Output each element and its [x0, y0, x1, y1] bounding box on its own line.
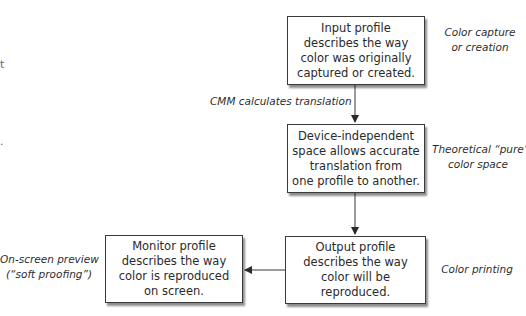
box-line: Device-independent [292, 129, 420, 144]
side-label-line: On-screen preview [0, 252, 98, 267]
input-profile-box: Input profile describes the way color wa… [287, 16, 425, 85]
box-line: color was originally [297, 51, 415, 66]
color-capture-label: Color capture or creation [440, 25, 520, 55]
box-line: one profile to another. [292, 174, 420, 189]
box-line: Monitor profile [119, 239, 229, 254]
side-label-line: color space [432, 157, 524, 172]
box-line: describes the way [297, 36, 415, 51]
side-label-line: Color printing [437, 262, 517, 277]
device-independent-space-box: Device-independent space allows accurate… [287, 124, 425, 193]
side-label-line: Theoretical “pure” [432, 142, 524, 157]
box-line: reproduced. [303, 285, 407, 300]
output-profile-box: Output profile describes the way color w… [285, 236, 426, 304]
box-line: on screen. [119, 284, 229, 299]
edge-label: CMM calculates translation [210, 94, 352, 109]
theoretical-color-space-label: Theoretical “pure” color space [432, 142, 524, 172]
box-line: space allows accurate [292, 144, 420, 159]
soft-proofing-label: On-screen preview (“soft proofing”) [0, 252, 98, 282]
box-line: Input profile [297, 21, 415, 36]
box-line: captured or created. [297, 66, 415, 81]
side-label-line: Color capture [440, 25, 520, 40]
box-line: translation from [292, 159, 420, 174]
color-printing-label: Color printing [437, 262, 517, 277]
monitor-profile-box: Monitor profile describes the way color … [105, 235, 243, 303]
box-line: Output profile [303, 240, 407, 255]
side-label-line: (“soft proofing”) [0, 267, 98, 282]
cmm-translation-label: CMM calculates translation [210, 94, 352, 109]
box-line: describes the way [119, 254, 229, 269]
box-line: describes the way [303, 255, 407, 270]
box-line: color will be [303, 270, 407, 285]
box-line: color is reproduced [119, 269, 229, 284]
side-label-line: or creation [440, 40, 520, 55]
